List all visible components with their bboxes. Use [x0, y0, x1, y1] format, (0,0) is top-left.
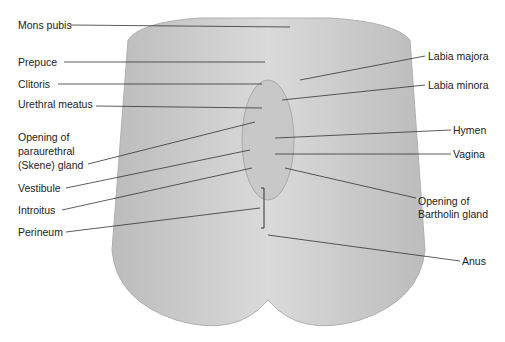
label-labia-minora: Labia minora: [428, 79, 489, 91]
label-urethral-meatus: Urethral meatus: [18, 98, 93, 110]
label-perineum: Perineum: [18, 226, 63, 238]
label-clitoris: Clitoris: [18, 78, 50, 90]
label-vestibule: Vestibule: [18, 182, 61, 194]
label-introitus: Introitus: [18, 204, 55, 216]
label-skene-gland: (Skene) gland: [18, 159, 83, 171]
label-opening-of: Opening of: [418, 195, 469, 207]
label-opening-of: Opening of: [18, 131, 69, 143]
label-bartholin-gland: Bartholin gland: [418, 208, 488, 220]
label-mons-pubis: Mons pubis: [18, 19, 72, 31]
label-labia-majora: Labia majora: [428, 50, 489, 62]
label-paraurethral: paraurethral: [18, 145, 75, 157]
label-anus: Anus: [462, 255, 486, 267]
label-vagina: Vagina: [453, 148, 485, 160]
diagram-figure: Mons pubisPrepuceClitorisUrethral meatus…: [0, 0, 505, 342]
label-hymen: Hymen: [453, 124, 486, 136]
label-prepuce: Prepuce: [18, 56, 57, 68]
